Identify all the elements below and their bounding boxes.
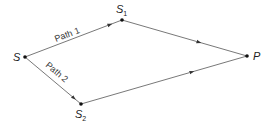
label-path-2: Path 2: [44, 60, 70, 84]
node-s: [23, 55, 27, 59]
label-s: S: [13, 51, 21, 63]
path-diagram: S S1 P S2 Path 1 Path 2: [0, 0, 271, 126]
edge-s1-to-p: [122, 20, 247, 56]
label-p: P: [253, 50, 261, 62]
edge-s2-to-p: [81, 56, 247, 104]
node-s1: [120, 18, 124, 22]
node-s2: [79, 102, 83, 106]
label-s2: S2: [75, 108, 86, 122]
node-p: [245, 54, 249, 58]
label-s1: S1: [116, 3, 127, 17]
edge-s-to-s1: [25, 20, 122, 57]
